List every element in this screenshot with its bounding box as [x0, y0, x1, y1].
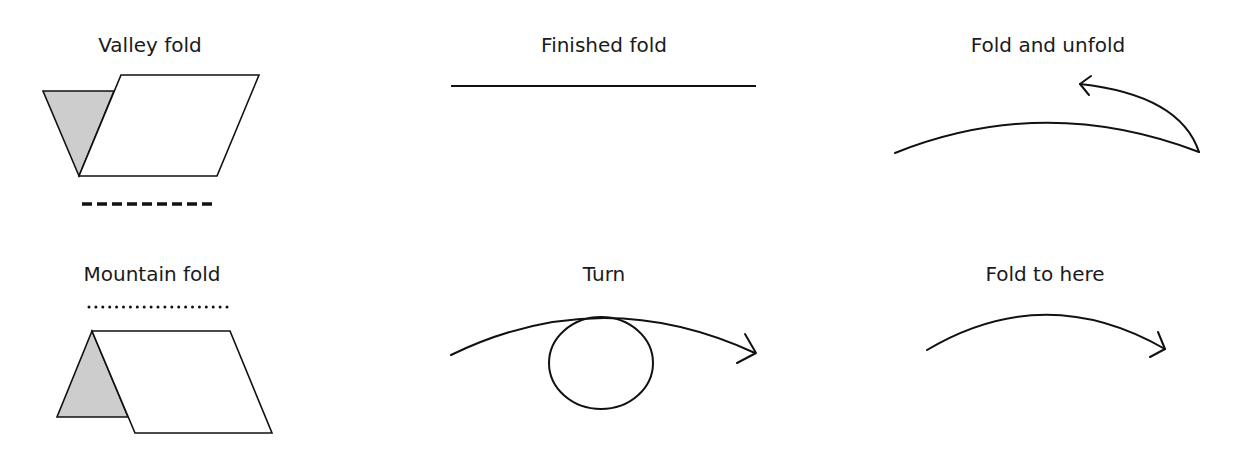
turn-circle-shape — [549, 317, 653, 409]
valley-fold-diagram — [43, 75, 259, 204]
fold-to-here-diagram — [927, 315, 1165, 357]
diagram-canvas — [0, 0, 1238, 461]
fold-and-unfold-return-curve — [1080, 84, 1199, 152]
fold-to-here-curve — [927, 315, 1165, 350]
mountain-fold-diagram — [57, 307, 272, 433]
turn-arrow-curve — [451, 318, 755, 355]
fold-and-unfold-lower-curve — [895, 123, 1199, 153]
turn-diagram — [451, 317, 756, 409]
valley-fold-paper-shape — [79, 75, 259, 176]
fold-and-unfold-diagram — [895, 76, 1199, 153]
